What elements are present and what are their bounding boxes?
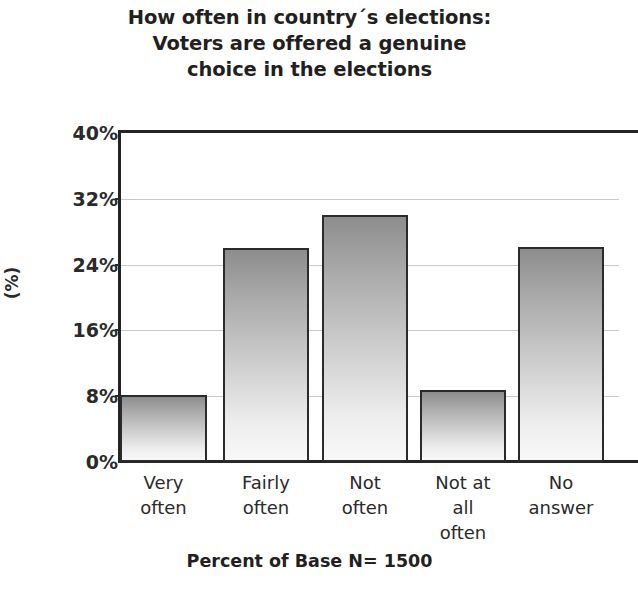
plot-area <box>121 133 619 462</box>
bar-very-often[interactable] <box>120 395 207 462</box>
x-tick-label: Notoften <box>308 470 422 520</box>
x-tick-label-line: Not at <box>406 470 520 495</box>
x-tick-label-line: often <box>308 495 422 520</box>
y-tick-label: 24% <box>46 254 118 276</box>
x-tick-label-line: Fairly <box>209 470 323 495</box>
x-tick-label-line: answer <box>504 495 618 520</box>
bar-no-answer[interactable] <box>518 247 604 462</box>
x-tick-label-line: Not <box>308 470 422 495</box>
x-tick-label: Not atalloften <box>406 470 520 545</box>
x-tick-label: Fairlyoften <box>209 470 323 520</box>
x-tick-label-line: often <box>406 520 520 545</box>
bar-fairly-often[interactable] <box>223 248 309 462</box>
x-tick-label: Noanswer <box>504 470 618 520</box>
bar-not-often[interactable] <box>322 215 408 462</box>
x-tick-label-line: Very <box>106 470 221 495</box>
y-tick-label: 8% <box>46 385 118 407</box>
x-axis-labels: VeryoftenFairlyoftenNotoftenNot atalloft… <box>0 470 619 550</box>
bar-not-at-all-often[interactable] <box>420 390 506 462</box>
x-tick-label: Veryoften <box>106 470 221 520</box>
y-axis-title: (%) <box>2 253 22 313</box>
y-tick-label: 32% <box>46 188 118 210</box>
x-axis-title: Percent of Base N= 1500 <box>0 551 619 571</box>
x-tick-label-line: often <box>106 495 221 520</box>
x-tick-label-line: often <box>209 495 323 520</box>
x-tick-label-line: No <box>504 470 618 495</box>
x-tick-label-line: all <box>406 495 520 520</box>
y-tick-label: 40% <box>46 122 118 144</box>
gridline <box>121 199 619 200</box>
y-tick-label: 16% <box>46 319 118 341</box>
